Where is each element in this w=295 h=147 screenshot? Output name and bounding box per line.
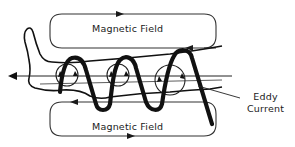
arrow-left-icon: [8, 72, 17, 80]
arrow-right-icon: [127, 133, 135, 139]
arrow-left-icon: [70, 99, 78, 105]
top-field-label: Magnetic Field: [92, 24, 163, 34]
eddy-label-line2: Current: [247, 103, 284, 115]
excitation-coil: [60, 50, 212, 124]
eddy-current-label: Eddy Current: [247, 91, 284, 115]
bottom-magnetic-field-loop: [50, 99, 216, 139]
bottom-field-label: Magnetic Field: [92, 122, 163, 132]
arrow-right-icon: [116, 11, 124, 17]
eddy-label-line1: Eddy: [247, 91, 284, 103]
